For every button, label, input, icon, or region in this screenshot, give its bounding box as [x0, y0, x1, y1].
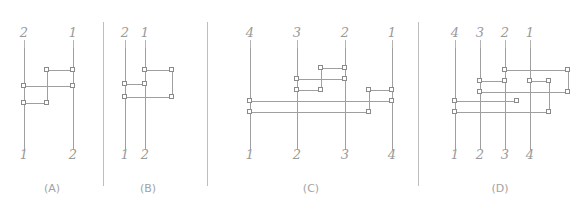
junction-node: [477, 78, 482, 83]
horizontal-connector: [480, 92, 568, 93]
junction-node: [565, 67, 570, 72]
bottom-terminal-label: 2: [472, 148, 488, 162]
horizontal-connector: [455, 101, 517, 102]
wiring-diagram-figure: 2112(A)2112(B)43211234(C)43211234(D): [0, 0, 588, 212]
bottom-terminal-label: 3: [497, 148, 513, 162]
top-terminal-label: 4: [447, 26, 463, 40]
junction-node: [477, 89, 482, 94]
junction-node: [546, 109, 551, 114]
junction-node: [514, 98, 519, 103]
bottom-terminal-label: 1: [447, 148, 463, 162]
junction-node: [452, 98, 457, 103]
vertical-wire: [480, 48, 481, 150]
vertical-wire: [530, 48, 531, 150]
junction-node: [565, 89, 570, 94]
top-terminal-label: 2: [497, 26, 513, 40]
top-terminal-label: 3: [472, 26, 488, 40]
panel-d: 43211234(D): [0, 0, 588, 212]
panel-caption-d: (D): [480, 182, 520, 195]
junction-node: [527, 78, 532, 83]
junction-node: [546, 78, 551, 83]
bottom-terminal-label: 4: [522, 148, 538, 162]
top-terminal-label: 1: [522, 26, 538, 40]
vertical-wire: [505, 48, 506, 150]
horizontal-connector: [505, 70, 568, 71]
junction-node: [502, 78, 507, 83]
junction-node: [502, 67, 507, 72]
vertical-wire: [549, 81, 550, 112]
junction-node: [452, 109, 457, 114]
horizontal-connector: [455, 112, 549, 113]
